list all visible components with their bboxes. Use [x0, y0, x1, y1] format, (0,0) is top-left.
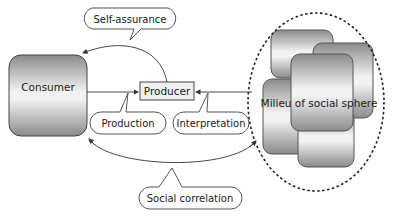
social-correlation-arc: [89, 139, 256, 163]
producer-node: Producer: [140, 82, 194, 100]
diagram-canvas: Consumer Producer Milieu of social spher…: [0, 0, 398, 221]
social-correlation-label: Social correlation: [147, 193, 233, 204]
consumer-node: Consumer: [9, 55, 87, 136]
interpretation-label: Interpretation: [176, 118, 245, 129]
self-assurance-callout: Self-assurance: [84, 8, 175, 40]
milieu-label: Milieu of social sphere: [261, 97, 378, 109]
milieu-node: Milieu of social sphere: [248, 13, 384, 191]
production-label: Production: [101, 118, 154, 129]
self-assurance-label: Self-assurance: [94, 14, 167, 25]
self-assurance-arrow: [83, 46, 167, 82]
social-correlation-callout: Social correlation: [139, 168, 242, 209]
consumer-label: Consumer: [21, 81, 75, 93]
producer-label: Producer: [144, 85, 191, 97]
diagram-svg: Consumer Producer Milieu of social spher…: [0, 0, 398, 221]
